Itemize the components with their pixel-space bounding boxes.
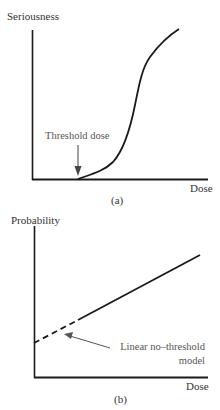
lnt-label-line2: model [179, 355, 205, 366]
panel-b: Probability Linear no–threshold model Do… [11, 214, 209, 406]
x-axis-label-dose-b: Dose [186, 380, 209, 392]
y-axis-label-seriousness: Seriousness [7, 10, 59, 22]
x-axis-label-dose-a: Dose [190, 182, 213, 194]
y-axis-label-probability: Probability [11, 214, 60, 226]
lnt-arrow-icon [70, 336, 110, 348]
dose-response-diagrams: Seriousness Threshold dose Dose (a) Prob… [0, 0, 220, 410]
sigmoid-curve [78, 29, 179, 179]
lnt-arrowhead-icon [64, 332, 73, 339]
caption-a: (a) [111, 194, 124, 207]
caption-b: (b) [114, 393, 127, 406]
dashed-extrapolation-line [34, 320, 78, 343]
threshold-dose-label: Threshold dose [45, 130, 110, 141]
linear-model-line [78, 255, 200, 320]
threshold-arrowhead-icon [75, 166, 82, 176]
panel-a: Seriousness Threshold dose Dose (a) [7, 10, 213, 207]
lnt-label-line1: Linear no–threshold [120, 341, 206, 352]
